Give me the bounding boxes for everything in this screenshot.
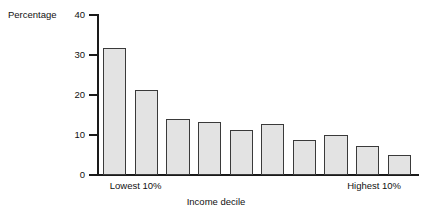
x-axis-label-lowest: Lowest 10% [110, 180, 162, 191]
plot-area [99, 15, 415, 175]
y-tick-label-20: 20 [55, 90, 85, 100]
bar-decile-4 [198, 122, 221, 175]
y-tick-label-10: 10 [55, 130, 85, 140]
x-axis-title: Income decile [0, 196, 432, 207]
bar-chart-figure: Percentage 010203040 Lowest 10% Highest … [0, 0, 432, 216]
y-tick-30 [89, 54, 98, 56]
bar-decile-6 [261, 124, 284, 175]
bar-decile-10 [388, 155, 411, 175]
y-tick-label-0: 0 [55, 170, 85, 180]
bar-decile-8 [324, 135, 347, 175]
y-tick-0 [89, 174, 98, 176]
y-tick-label-40: 40 [55, 10, 85, 20]
y-tick-20 [89, 94, 98, 96]
y-tick-40 [89, 14, 98, 16]
bar-decile-2 [135, 90, 158, 175]
bar-decile-3 [166, 119, 189, 175]
bar-decile-5 [230, 130, 253, 175]
bar-decile-1 [103, 48, 126, 175]
bar-decile-9 [356, 146, 379, 175]
y-axis-title: Percentage [8, 9, 57, 21]
y-tick-label-30: 30 [55, 50, 85, 60]
x-axis-label-highest: Highest 10% [347, 180, 401, 191]
bar-decile-7 [293, 140, 316, 175]
y-tick-10 [89, 134, 98, 136]
